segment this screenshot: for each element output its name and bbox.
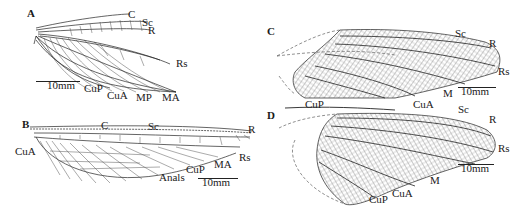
- scale-line: [458, 164, 494, 165]
- vein-label-r: R: [489, 114, 496, 125]
- vein-label-sc: Sc: [455, 28, 466, 39]
- panel-c-forewing: C Sc R Rs M 10mm: [265, 0, 531, 100]
- vein-label-r: R: [148, 25, 155, 36]
- vein-label-rs: Rs: [498, 66, 510, 77]
- vein-label-c: C: [128, 9, 135, 20]
- vein-label-cua: CuA: [392, 188, 413, 199]
- scale-line: [36, 81, 80, 82]
- vein-label-sc: Sc: [148, 121, 159, 132]
- vein-label-cup: CuP: [84, 83, 103, 94]
- vein-label-r: R: [489, 38, 496, 49]
- vein-label-cup: CuP: [186, 164, 205, 175]
- vein-label-m: M: [430, 175, 440, 186]
- panel-label-d: D: [267, 110, 275, 121]
- vein-label-ma: MA: [162, 92, 180, 103]
- panel-d-hindwing: D Sc R Rs 10mm M CuA CuP: [265, 100, 531, 209]
- forewing-c-venation: [265, 0, 531, 100]
- panel-label-b: B: [22, 119, 29, 130]
- vein-label-mp: MP: [136, 92, 152, 103]
- vein-label-cua: CuA: [15, 146, 36, 157]
- vein-label-ma: MA: [214, 159, 232, 170]
- panel-label-a: A: [27, 8, 35, 19]
- vein-label-r: R: [248, 124, 255, 135]
- panel-label-c: C: [267, 26, 275, 37]
- vein-label-rs: Rs: [176, 58, 188, 69]
- vein-label-anals: Anals: [159, 172, 185, 183]
- vein-label-rs: Rs: [239, 152, 251, 163]
- hindwing-b-venation: [0, 105, 265, 209]
- scale-line: [458, 87, 496, 88]
- scale-line: [198, 178, 238, 179]
- vein-label-sc: Sc: [458, 104, 469, 115]
- vein-label-m: M: [443, 88, 453, 99]
- panel-b-hindwing: B C Sc R CuA Rs MA CuP Anals 10mm: [0, 105, 265, 209]
- vein-label-cup: CuP: [369, 194, 388, 205]
- vein-label-cua: CuA: [107, 90, 128, 101]
- vein-label-rs: Rs: [498, 143, 510, 154]
- vein-label-c: C: [101, 120, 108, 131]
- panel-a-forewing: A C Sc R Rs 10mm CuP CuA MP MA: [0, 0, 265, 105]
